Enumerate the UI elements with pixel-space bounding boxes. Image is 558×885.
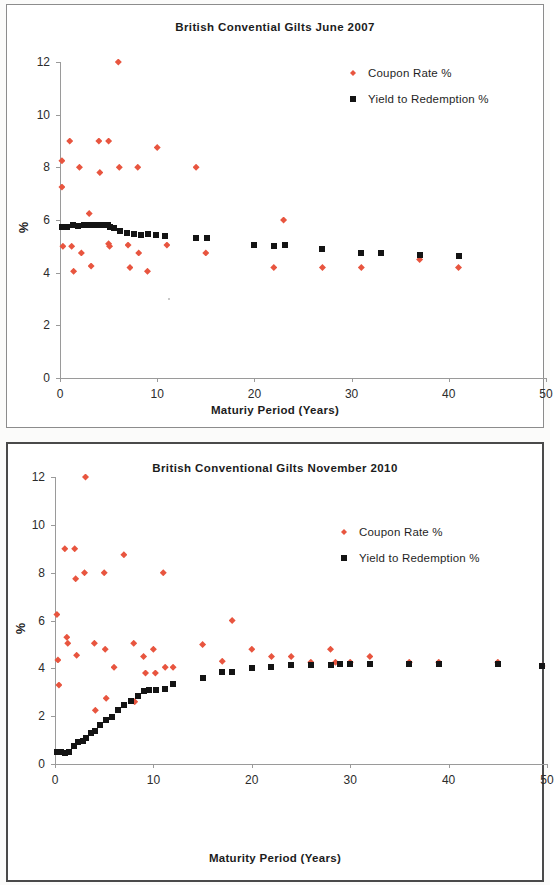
data-point-coupon-rate [270, 264, 277, 271]
data-point-coupon-rate [71, 545, 78, 552]
legend-label: Yield to Redemption % [359, 552, 480, 564]
x-tick [449, 764, 450, 768]
data-point-coupon-rate [111, 664, 118, 671]
data-point-yield-to-redemption [146, 687, 152, 693]
data-point-coupon-rate [144, 268, 151, 275]
data-point-yield-to-redemption [204, 235, 210, 241]
legend: Coupon Rate %Yield to Redemption % [347, 67, 489, 119]
data-point-coupon-rate [288, 653, 295, 660]
data-point-coupon-rate [135, 249, 142, 256]
x-tick [547, 764, 548, 768]
data-point-coupon-rate [95, 138, 102, 145]
x-tick-label: 40 [436, 774, 462, 786]
data-point-yield-to-redemption [124, 230, 130, 236]
data-point-coupon-rate [130, 640, 137, 647]
data-point-coupon-rate [88, 263, 95, 270]
data-point-yield-to-redemption [66, 749, 72, 755]
x-tick [252, 764, 253, 768]
data-point-coupon-rate [82, 474, 89, 481]
data-point-coupon-rate [63, 634, 70, 641]
data-point-coupon-rate [199, 641, 206, 648]
data-point-yield-to-redemption [539, 663, 545, 669]
data-point-coupon-rate [55, 682, 62, 689]
data-point-coupon-rate [120, 551, 127, 558]
chart-panel-november-2010: British Conventional Gilts November 2010… [6, 442, 544, 882]
data-point-coupon-rate [152, 670, 159, 677]
data-point-coupon-rate [134, 164, 141, 171]
data-point-coupon-rate [268, 653, 275, 660]
data-point-coupon-rate [115, 59, 122, 66]
x-tick [60, 378, 61, 382]
diamond-icon [347, 68, 361, 78]
data-point-coupon-rate [103, 695, 110, 702]
data-point-coupon-rate [101, 569, 108, 576]
legend-item: Yield to Redemption % [347, 93, 489, 105]
data-point-coupon-rate [163, 242, 170, 249]
data-point-yield-to-redemption [271, 243, 277, 249]
data-point-coupon-rate [162, 664, 169, 671]
data-point-yield-to-redemption [153, 687, 159, 693]
x-tick [157, 378, 158, 382]
data-point-yield-to-redemption [328, 662, 334, 668]
data-point-coupon-rate [170, 664, 177, 671]
data-point-coupon-rate [96, 169, 103, 176]
y-tick-label: 2 [19, 710, 45, 722]
data-point-yield-to-redemption [109, 714, 115, 720]
data-point-yield-to-redemption [367, 661, 373, 667]
data-point-yield-to-redemption [229, 669, 235, 675]
x-tick-label: 10 [140, 774, 166, 786]
diamond-icon [338, 527, 352, 537]
data-point-yield-to-redemption [378, 250, 384, 256]
y-tick [51, 477, 55, 478]
data-point-yield-to-redemption [456, 253, 462, 259]
data-point-yield-to-redemption [288, 662, 294, 668]
data-point-coupon-rate [219, 658, 226, 665]
data-point-yield-to-redemption [308, 662, 314, 668]
y-tick-label: 4 [19, 662, 45, 674]
data-point-coupon-rate [160, 569, 167, 576]
data-point-coupon-rate [91, 640, 98, 647]
data-point-coupon-rate [105, 138, 112, 145]
data-point-coupon-rate [319, 264, 326, 271]
data-point-coupon-rate [61, 545, 68, 552]
x-tick-label: 30 [339, 388, 365, 400]
data-point-yield-to-redemption [282, 242, 288, 248]
data-point-coupon-rate [140, 653, 147, 660]
x-tick [350, 764, 351, 768]
data-point-yield-to-redemption [417, 252, 423, 258]
x-tick-label: 30 [337, 774, 363, 786]
data-point-coupon-rate [78, 249, 85, 256]
x-tick [449, 378, 450, 382]
y-tick-label: 12 [19, 471, 45, 483]
data-point-yield-to-redemption [162, 233, 168, 239]
x-tick-label: 10 [144, 388, 170, 400]
y-tick-label: 10 [24, 109, 50, 121]
data-point-coupon-rate [70, 268, 77, 275]
data-point-yield-to-redemption [131, 231, 137, 237]
data-point-yield-to-redemption [138, 232, 144, 238]
data-point-coupon-rate [193, 164, 200, 171]
data-point-coupon-rate [68, 243, 75, 250]
y-tick-label: 8 [24, 161, 50, 173]
data-point-coupon-rate [86, 210, 93, 217]
chart-title: British Conventional Gilts November 2010 [8, 462, 542, 474]
data-point-yield-to-redemption [153, 232, 159, 238]
legend: Coupon Rate %Yield to Redemption % [338, 526, 480, 578]
data-point-coupon-rate [102, 646, 109, 653]
x-tick-label: 40 [436, 388, 462, 400]
legend-label: Coupon Rate % [359, 526, 443, 538]
x-axis-title: Maturiy Period (Years) [7, 404, 543, 416]
legend-item: Yield to Redemption % [338, 552, 480, 564]
y-axis-line [55, 477, 56, 764]
y-tick [51, 525, 55, 526]
x-axis-title: Maturity Period (Years) [8, 852, 542, 864]
legend-label: Yield to Redemption % [368, 93, 489, 105]
legend-label: Coupon Rate % [368, 67, 452, 79]
data-point-yield-to-redemption [268, 664, 274, 670]
data-point-yield-to-redemption [337, 661, 343, 667]
y-tick-label: 2 [24, 319, 50, 331]
x-tick [254, 378, 255, 382]
data-point-coupon-rate [202, 249, 209, 256]
data-point-yield-to-redemption [121, 702, 127, 708]
